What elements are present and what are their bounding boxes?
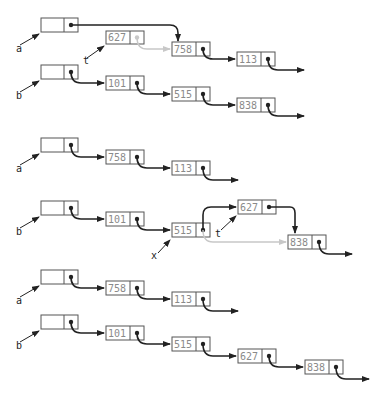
node-value: 515 <box>174 89 192 100</box>
node-value: 627 <box>240 351 258 362</box>
pointer-arrow <box>20 154 39 165</box>
node-value: 101 <box>108 328 126 339</box>
linked-list-diagrams: a 627 t 758 113 <box>0 0 390 399</box>
node-value: 627 <box>240 202 258 213</box>
var-label-a: a <box>16 295 22 306</box>
node-value: 838 <box>307 362 325 373</box>
node-value: 758 <box>108 283 126 294</box>
list-node-515: 515 <box>172 223 210 237</box>
pointer-arrow <box>20 34 39 45</box>
var-label-x: x <box>151 250 157 261</box>
node-value: 113 <box>174 163 192 174</box>
node-value: 627 <box>108 32 126 43</box>
pointer-arrow <box>87 46 104 58</box>
var-label-a: a <box>16 43 22 54</box>
head-node-a <box>41 138 78 152</box>
var-label-b: b <box>16 340 22 351</box>
node-value: 838 <box>239 100 257 111</box>
diagram-2: a 758 113 b 101 <box>16 138 352 261</box>
node-value: 758 <box>108 152 126 163</box>
node-value: 101 <box>108 78 126 89</box>
var-label-t: t <box>83 55 89 66</box>
pointer-arrow <box>221 216 236 230</box>
var-label-a: a <box>16 163 22 174</box>
var-label-b: b <box>16 226 22 237</box>
node-value: 515 <box>174 225 192 236</box>
list-node-627: 627 <box>106 31 144 44</box>
pointer-arrow <box>158 240 170 253</box>
pointer-arrow <box>20 286 39 297</box>
pointer-arrow <box>20 81 39 92</box>
pointer-arrow <box>20 217 39 228</box>
node-value: 515 <box>174 339 192 350</box>
diagram-3: a 758 113 b 101 <box>16 270 369 379</box>
var-label-t: t <box>215 228 221 239</box>
diagram-1: a 627 t 758 113 <box>16 18 304 116</box>
node-value: 101 <box>108 214 126 225</box>
node-value: 113 <box>239 54 257 65</box>
node-value: 758 <box>174 44 192 55</box>
node-value: 113 <box>174 294 192 305</box>
pointer-arrow <box>20 331 39 342</box>
node-value: 838 <box>290 237 308 248</box>
var-label-b: b <box>16 90 22 101</box>
